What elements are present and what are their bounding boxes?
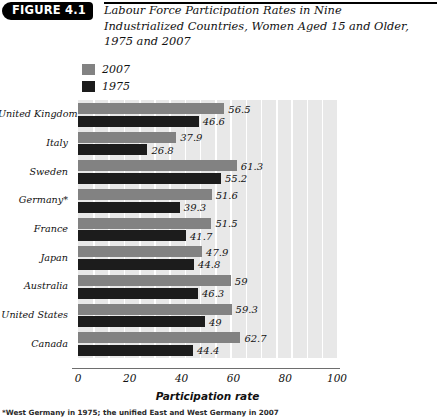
bar-value-label: 37.9 — [180, 132, 202, 143]
bar-1975 — [78, 259, 194, 270]
bar-1975 — [78, 345, 193, 356]
bar-value-label: 49 — [209, 317, 222, 328]
bar-value-label: 62.7 — [244, 333, 266, 344]
bar-2007 — [78, 132, 176, 143]
bar-1975 — [78, 316, 205, 327]
bar-value-label: 61.3 — [241, 161, 263, 172]
bar-value-label: 47.9 — [206, 247, 228, 258]
figure-number-badge: FIGURE 4.1 — [2, 2, 93, 20]
chart-legend: 2007 1975 — [82, 62, 130, 96]
bar-value-label: 41.7 — [190, 231, 212, 242]
legend-item-1975: 1975 — [82, 79, 130, 94]
legend-swatch-icon-1975 — [82, 81, 95, 92]
category-axis-labels: United KingdomItalySwedenGermany*FranceJ… — [0, 100, 72, 358]
bar-2007 — [78, 103, 224, 114]
bar-1975 — [78, 202, 180, 213]
x-axis-tick-label: 0 — [75, 372, 82, 384]
bar-value-label: 46.3 — [202, 288, 224, 299]
bar-1975 — [78, 144, 147, 155]
page-title: Labour Force Participation Rates in Nine… — [104, 3, 424, 50]
bar-2007 — [78, 189, 212, 200]
bar-2007 — [78, 246, 202, 257]
category-label: Germany* — [0, 194, 68, 205]
bar-1975 — [78, 116, 199, 127]
legend-item-2007: 2007 — [82, 62, 130, 77]
bar-value-label: 46.6 — [203, 116, 225, 127]
category-label: Sweden — [0, 166, 68, 177]
x-axis-line — [72, 368, 340, 369]
x-axis-tick-label: 40 — [175, 372, 188, 384]
x-axis-tick-label: 100 — [327, 372, 347, 384]
bar-1975 — [78, 173, 221, 184]
category-label: Italy — [0, 137, 68, 148]
x-axis-title: Participation rate — [78, 390, 337, 402]
figure-container: FIGURE 4.1 Labour Force Participation Ra… — [0, 0, 439, 418]
category-label: Canada — [0, 338, 68, 349]
legend-label-1975: 1975 — [102, 81, 130, 93]
category-label: Japan — [0, 252, 68, 263]
bar-value-label: 51.6 — [216, 190, 238, 201]
bar-value-label: 59.3 — [236, 304, 258, 315]
bar-value-label: 55.2 — [225, 173, 247, 184]
legend-swatch-icon-2007 — [82, 64, 95, 75]
bar-2007 — [78, 275, 231, 286]
category-label: France — [0, 223, 68, 234]
bar-value-label: 26.8 — [151, 145, 173, 156]
x-axis-tick-label: 80 — [279, 372, 292, 384]
bar-value-label: 51.5 — [215, 218, 237, 229]
bar-value-label: 44.8 — [198, 259, 220, 270]
legend-label-2007: 2007 — [102, 64, 130, 76]
bar-2007 — [78, 304, 232, 315]
x-axis-tick-label: 60 — [227, 372, 240, 384]
bar-value-label: 56.5 — [228, 104, 250, 115]
bar-2007 — [78, 160, 237, 171]
bar-value-label: 44.4 — [197, 345, 219, 356]
chart-plot-wrapper: United KingdomItalySwedenGermany*FranceJ… — [0, 100, 439, 418]
bar-value-label: 59 — [235, 276, 248, 287]
bar-value-label: 39.3 — [184, 202, 206, 213]
category-label: Australia — [0, 280, 68, 291]
category-label: United States — [0, 309, 68, 320]
bar-2007 — [78, 218, 211, 229]
x-axis-tick-label: 20 — [123, 372, 136, 384]
figure-header: FIGURE 4.1 Labour Force Participation Ra… — [0, 0, 439, 56]
bar-2007 — [78, 332, 240, 343]
category-label: United Kingdom — [0, 108, 68, 119]
bar-1975 — [78, 230, 186, 241]
bars-layer: 56.546.637.926.861.355.251.639.351.541.7… — [78, 100, 439, 358]
bar-1975 — [78, 288, 198, 299]
figure-footnote: *West Germany in 1975; the unified East … — [2, 408, 432, 417]
